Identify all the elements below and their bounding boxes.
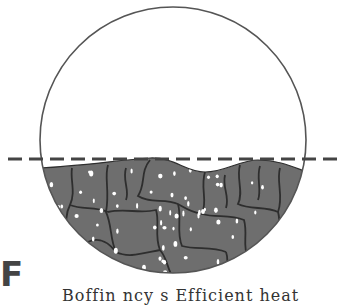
speck — [162, 245, 165, 251]
speck — [175, 213, 179, 218]
speck — [216, 219, 220, 224]
speck — [276, 268, 279, 274]
speck — [50, 182, 54, 187]
speck — [79, 191, 82, 194]
speck — [232, 235, 235, 239]
speck — [114, 269, 116, 273]
speck — [78, 243, 81, 249]
speck — [114, 248, 118, 254]
speck — [171, 193, 174, 198]
speck — [112, 192, 116, 196]
speck — [92, 236, 95, 241]
speck — [184, 196, 187, 200]
speck — [88, 273, 91, 277]
speck — [296, 232, 299, 236]
speck — [260, 246, 263, 251]
speck — [174, 241, 178, 247]
speck — [169, 210, 171, 215]
speck — [106, 262, 109, 266]
speck — [214, 208, 218, 213]
speck — [150, 191, 153, 194]
speck — [162, 226, 166, 229]
speck — [286, 258, 290, 263]
speck — [76, 252, 80, 256]
speck — [64, 262, 66, 265]
speck — [153, 225, 157, 229]
speck — [278, 228, 280, 232]
speck — [295, 222, 297, 226]
panel-label: F — [0, 254, 23, 294]
contents — [40, 158, 310, 298]
speck — [182, 211, 184, 217]
speck — [197, 213, 199, 219]
speck — [159, 256, 162, 260]
speck — [161, 260, 164, 263]
speck — [217, 259, 220, 265]
speck — [261, 185, 264, 189]
speck — [159, 206, 162, 212]
speck — [173, 171, 176, 176]
speck — [158, 174, 162, 179]
speck — [93, 198, 95, 203]
speck — [207, 176, 210, 180]
speck — [96, 223, 99, 226]
speck — [216, 174, 219, 178]
speck — [100, 208, 104, 213]
speck — [190, 227, 192, 231]
speck — [61, 204, 64, 208]
speck — [294, 201, 297, 206]
speck — [116, 204, 119, 208]
speck — [216, 183, 220, 187]
contents-fill — [40, 158, 310, 298]
speck — [172, 227, 174, 231]
speck — [236, 219, 239, 224]
speck — [131, 168, 133, 173]
speck — [284, 232, 288, 237]
speck — [75, 214, 79, 218]
speck — [136, 203, 138, 209]
speck — [219, 183, 222, 188]
speck — [254, 211, 256, 215]
cell-border — [248, 252, 284, 260]
speck — [88, 170, 90, 173]
speck — [204, 208, 206, 212]
speck — [160, 220, 162, 226]
speck — [116, 229, 118, 234]
speck — [56, 210, 60, 215]
speck — [76, 245, 80, 248]
cell-border — [258, 166, 260, 200]
speck — [251, 181, 253, 184]
caption-text: Boffin ncy s Efficient heat — [62, 286, 338, 306]
speck — [184, 256, 188, 260]
speck — [187, 201, 189, 206]
